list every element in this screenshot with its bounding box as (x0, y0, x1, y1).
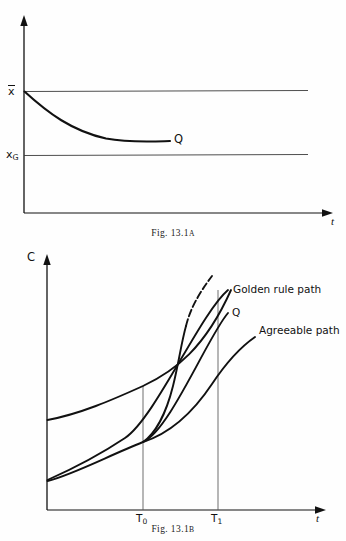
level-line-x-bar (24, 91, 308, 92)
axis-label-x-bar: x-bar x (8, 85, 15, 97)
optimal-path-q-curve (48, 313, 229, 481)
curve-label-q-figure-a: Q (174, 134, 183, 146)
level-line-x-golden (24, 155, 308, 156)
figure-13-1a: x-bar x xG Q t Fig. 13.1A (0, 0, 346, 248)
y-axis-figure-b (43, 254, 50, 510)
decaying-path-curve (25, 92, 171, 142)
figure-page: x-bar x xG Q t Fig. 13.1A (0, 0, 346, 541)
curve-label-q-figure-b: Q (232, 307, 240, 318)
axis-label-c-figure-b: C (27, 252, 35, 264)
turnpike-s-curve-solid (143, 326, 186, 442)
axis-label-x-golden: xG (6, 149, 19, 162)
axis-label-t-figure-b: t (316, 513, 319, 524)
figure-13-1b: C Golden rule path Q Agreeable path T0 T… (0, 248, 346, 541)
caption-a-suffix: A (189, 229, 195, 238)
curve-label-agreeable-path: Agreeable path (259, 325, 340, 336)
y-axis-figure-a (20, 15, 27, 213)
caption-figure-13-1b: Fig. 13.1B (0, 524, 346, 534)
x-axis-figure-b (47, 506, 326, 513)
x-axis-figure-a (24, 209, 333, 216)
caption-a-prefix: Fig. (151, 228, 168, 238)
caption-b-suffix: B (189, 525, 194, 534)
caption-a-number: 13.1 (171, 228, 189, 238)
caption-figure-13-1a: Fig. 13.1A (0, 228, 346, 238)
curve-label-golden-rule-path: Golden rule path (233, 284, 321, 295)
turnpike-s-curve-dashed (186, 276, 212, 326)
axis-label-t-figure-a: t (331, 216, 334, 227)
caption-b-number: 13.1 (171, 524, 189, 534)
golden-rule-path-curve (48, 290, 229, 480)
figure-13-1a-graphic (0, 0, 346, 248)
caption-b-prefix: Fig. (151, 524, 168, 534)
